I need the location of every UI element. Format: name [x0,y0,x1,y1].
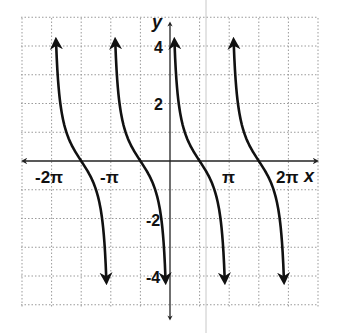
x-axis-label: x [303,166,315,186]
x-tick-label-negpi: -π [100,168,119,187]
x-tick-label-pi: π [222,168,235,187]
y-axis-label: y [151,12,163,32]
x-tick-label-neg2pi: -2π [35,168,63,187]
y-tick-label-4: 4 [154,39,163,56]
x-tick-label-2pi: 2π [276,168,298,187]
y-tick-label-neg4: -4 [146,269,160,286]
cotangent-graph: y x 4 2 -2 -4 -2π -π π 2π [0,0,338,333]
y-tick-label-neg2: -2 [146,212,160,229]
y-tick-label-2: 2 [154,96,163,113]
